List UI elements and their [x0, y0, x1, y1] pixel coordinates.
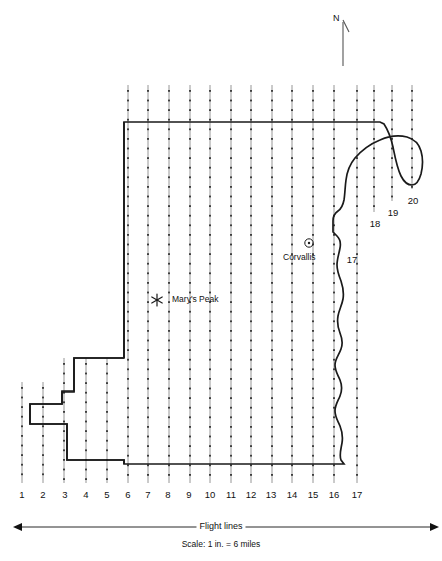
flight-line-tick [411, 90, 413, 92]
flight-line-tick [209, 397, 211, 399]
flight-line-tick [391, 176, 393, 178]
flight-line-tick [42, 454, 44, 456]
flight-line-tick [291, 378, 293, 380]
flight-line-tick [333, 311, 335, 313]
flight-line-tick [356, 426, 358, 428]
flight-line-tick [189, 474, 191, 476]
flight-line-tick [356, 397, 358, 399]
flight-line-tick [147, 272, 149, 274]
flight-line-tick [230, 167, 232, 169]
flight-line-tick [147, 455, 149, 457]
flight-line-tick [85, 392, 87, 394]
flight-line-tick [312, 128, 314, 130]
flight-line-tick [85, 411, 87, 413]
flight-line-tick [127, 272, 129, 274]
corvallis-label: Corvallis [283, 253, 316, 262]
flight-line-tick [168, 416, 170, 418]
flight-line-tick [291, 359, 293, 361]
flight-line-tick [356, 167, 358, 169]
flight-line-tick [147, 311, 149, 313]
flight-line-tick [209, 157, 211, 159]
flight-line-tick [312, 148, 314, 150]
flight-line-tick [106, 373, 108, 375]
flight-line-tick [209, 253, 211, 255]
flight-line-tick [230, 148, 232, 150]
flight-line-tick [250, 253, 252, 255]
flight-line-tick [147, 196, 149, 198]
flight-line-tick [373, 119, 375, 121]
flight-line-tick [106, 392, 108, 394]
flight-line-tick [250, 407, 252, 409]
flight-line-tick [230, 138, 232, 140]
flight-line-tick [356, 445, 358, 447]
flight-line-tick [168, 388, 170, 390]
flight-line-tick [312, 234, 314, 236]
flight-line-tick [250, 119, 252, 121]
flight-line-tick [250, 138, 252, 140]
flight-line-tick [168, 426, 170, 428]
flight-line-tick [209, 378, 211, 380]
flight-line-tick [333, 176, 335, 178]
flight-line-tick [168, 455, 170, 457]
flight-line-tick [250, 282, 252, 284]
flight-line-tick [271, 455, 273, 457]
flight-line-tick [189, 445, 191, 447]
flight-line-tick [127, 330, 129, 332]
flight-line-tick [168, 90, 170, 92]
flight-line-tick [168, 436, 170, 438]
flight-line-tick [291, 320, 293, 322]
flight-line-tick [291, 215, 293, 217]
flight-line-tick [291, 90, 293, 92]
flight-line-tick [356, 90, 358, 92]
flight-line-tick [333, 445, 335, 447]
flight-line-tick [250, 186, 252, 188]
flight-line-tick [312, 340, 314, 342]
flight-line-tick [168, 119, 170, 121]
flight-line-tick [291, 196, 293, 198]
flight-line-tick [63, 411, 65, 413]
flight-line-side-label-20: 20 [403, 196, 423, 206]
flight-line-tick [63, 373, 65, 375]
aeromagnetic-flight-line-map: N Corvallis Mary's Peak 1234567891011121… [0, 0, 442, 561]
flight-line-tick [391, 100, 393, 102]
flight-line-tick [147, 109, 149, 111]
flight-line-tick [209, 407, 211, 409]
flight-line-label-12: 12 [241, 490, 261, 500]
flight-line-tick [312, 320, 314, 322]
flight-line-tick [168, 157, 170, 159]
flight-line-tick [356, 215, 358, 217]
flight-line-tick [85, 382, 87, 384]
flight-line-tick [147, 138, 149, 140]
flight-line-tick [168, 407, 170, 409]
flight-line-tick [391, 90, 393, 92]
flight-line-tick [356, 234, 358, 236]
flight-line-tick [250, 100, 252, 102]
flight-line-tick [356, 292, 358, 294]
flight-line-tick [373, 100, 375, 102]
flight-line-tick [85, 430, 87, 432]
flight-line-tick [189, 368, 191, 370]
flight-line-tick [312, 157, 314, 159]
flight-line-tick [209, 436, 211, 438]
flight-line-tick [333, 349, 335, 351]
flight-line-tick [312, 167, 314, 169]
flight-line-tick [271, 436, 273, 438]
flight-line-tick [63, 363, 65, 365]
flight-line-tick [271, 109, 273, 111]
flight-line-tick [209, 176, 211, 178]
flight-line-tick [147, 224, 149, 226]
flight-line-tick [147, 349, 149, 351]
flight-line-tick [63, 382, 65, 384]
flight-line-tick [106, 449, 108, 451]
flight-line-tick [230, 272, 232, 274]
flight-line-tick [209, 244, 211, 246]
flight-line-tick [373, 157, 375, 159]
flight-line-tick [271, 292, 273, 294]
flight-line-tick [271, 474, 273, 476]
flight-line-tick [189, 234, 191, 236]
flight-line-tick [271, 205, 273, 207]
flight-line-tick [189, 340, 191, 342]
flight-line-tick [250, 176, 252, 178]
flight-line-tick [127, 416, 129, 418]
flight-line-tick [230, 109, 232, 111]
